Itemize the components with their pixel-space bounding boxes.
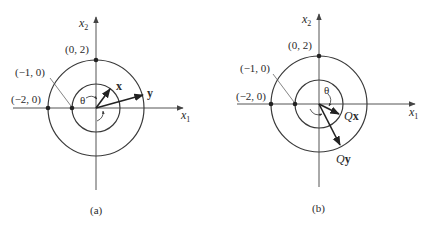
- rotation-arc-icon: [97, 111, 103, 121]
- vector-qy: [319, 104, 340, 145]
- vector-qy-label: Qy: [336, 152, 351, 166]
- label-neg2-0: (−2, 0): [11, 93, 41, 106]
- panel-a: (0, 2) (−1, 0) (−2, 0) θ x y x1 x2 (a): [11, 16, 190, 217]
- figure-canvas: (0, 2) (−1, 0) (−2, 0) θ x y x1 x2 (a) (…: [0, 0, 426, 225]
- x1-axis-label: x1: [408, 105, 418, 121]
- caption-a: (a): [90, 204, 103, 217]
- panel-b: (0, 2) (−1, 0) (−2, 0) θ Qx Qy x1 x2 (b): [236, 12, 418, 215]
- label-neg1-0: (−1, 0): [15, 66, 45, 79]
- label-0-2: (0, 2): [288, 39, 312, 52]
- vector-x-label: x: [116, 79, 122, 93]
- theta-label: θ: [324, 84, 329, 96]
- point-0-2: [317, 54, 322, 59]
- theta-label: θ: [80, 94, 85, 106]
- point-neg1-0: [70, 106, 75, 111]
- point-0-2: [94, 58, 99, 63]
- rotation-arc-icon: [310, 109, 322, 115]
- point-neg1-0: [293, 102, 298, 107]
- theta-arc-icon: [86, 96, 97, 99]
- leader-line: [50, 78, 71, 106]
- leader-line: [273, 74, 294, 102]
- vector-qx-label: Qx: [344, 109, 359, 123]
- label-0-2: (0, 2): [65, 43, 89, 56]
- label-neg1-0: (−1, 0): [240, 62, 270, 75]
- point-neg2-0: [269, 102, 274, 107]
- point-neg2-0: [46, 106, 51, 111]
- x1-axis-label: x1: [180, 108, 190, 124]
- vector-y-label: y: [147, 86, 153, 100]
- x2-axis-label: x2: [78, 16, 88, 32]
- caption-b: (b): [312, 202, 325, 215]
- x2-axis-label: x2: [301, 12, 311, 28]
- label-neg2-0: (−2, 0): [236, 90, 266, 103]
